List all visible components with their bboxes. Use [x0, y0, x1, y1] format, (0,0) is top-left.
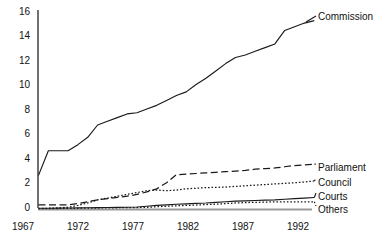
series-label-parliament: Parliament [318, 163, 366, 173]
x-tick-1972: 1972 [58, 222, 98, 232]
x-tick-1977: 1977 [113, 222, 153, 232]
x-tick-1967: 1967 [3, 222, 43, 232]
y-tick-0: 0 [8, 203, 30, 213]
series-line-courts [39, 197, 315, 208]
y-tick-12: 12 [8, 56, 30, 66]
y-tick-16: 16 [8, 7, 30, 17]
series-label-courts: Courts [318, 192, 347, 202]
leader-others [314, 202, 316, 206]
y-tick-14: 14 [8, 31, 30, 41]
x-tick-1987: 1987 [223, 222, 263, 232]
leader-courts [314, 193, 316, 197]
y-tick-2: 2 [8, 178, 30, 188]
y-tick-6: 6 [8, 129, 30, 139]
x-tick-1982: 1982 [168, 222, 208, 232]
y-tick-8: 8 [8, 105, 30, 115]
series-label-council: Council [318, 178, 351, 188]
series-line-commission [39, 21, 315, 176]
series-group [39, 21, 317, 209]
line-chart: 16 14 12 10 8 6 4 2 0 1967 1972 1977 198… [0, 0, 388, 240]
y-tick-10: 10 [8, 80, 30, 90]
series-line-parliament [39, 164, 315, 205]
axis-lines [38, 10, 312, 210]
leader-council [314, 179, 316, 181]
series-label-commission: Commission [318, 12, 373, 22]
y-tick-4: 4 [8, 154, 30, 164]
x-tick-1992: 1992 [278, 222, 318, 232]
series-label-others: Others [318, 205, 348, 215]
